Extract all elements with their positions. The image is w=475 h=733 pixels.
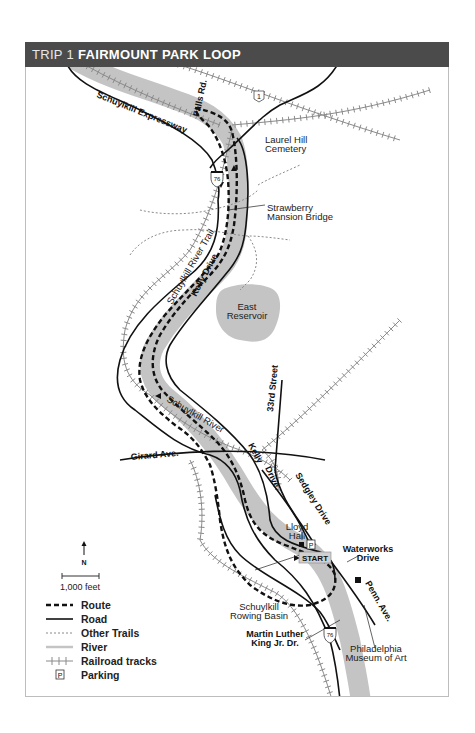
label-waterworks-2: Drive	[357, 553, 380, 563]
railroad-tie	[312, 114, 313, 120]
label-mlk-2: King Jr. Dr.	[251, 638, 299, 648]
svg-text:1: 1	[257, 93, 261, 100]
svg-text:76: 76	[214, 176, 221, 182]
railroad-tie	[223, 562, 226, 567]
railroad-tie	[172, 60, 174, 66]
railroad-tie	[282, 117, 283, 123]
label-sedgley-drive: Sedgley Drive	[293, 471, 333, 527]
railroad-tie	[275, 591, 278, 596]
railroad-tie	[198, 533, 204, 534]
lloyd-hall-marker	[299, 542, 304, 547]
railroad-tie	[196, 485, 202, 486]
railroad-tie	[235, 122, 236, 128]
label-laurel-hill-2: Cemetery	[265, 143, 306, 154]
legend-item-other-trails: Other Trails	[46, 627, 140, 639]
railroad-tie	[295, 614, 300, 617]
north-label: N	[81, 559, 86, 566]
railroad-tie	[377, 101, 378, 107]
railroad-tie	[270, 459, 275, 462]
railroad-tie	[288, 117, 289, 123]
railroad-tie	[198, 503, 204, 504]
legend: Route Road Other Trails River Railroad t…	[46, 599, 157, 681]
railroad-tie	[300, 115, 301, 121]
label-lloyd-hall-2: Hall	[289, 530, 305, 541]
svg-text:River: River	[81, 641, 107, 653]
label-east-reservoir-2: Reservoir	[227, 310, 268, 321]
railroad-tie	[183, 64, 185, 70]
railroad-tie	[329, 697, 335, 699]
railroad-tie	[291, 609, 296, 613]
railroad-tie	[136, 300, 141, 304]
railroad-tie	[178, 62, 180, 68]
railroad-tie	[228, 566, 231, 571]
railroad-tie	[353, 107, 354, 113]
railroad-tie	[371, 103, 372, 109]
railroad-tie	[332, 709, 338, 711]
label-strawberry-2: Mansion Bridge	[267, 211, 333, 222]
railroad-tie	[200, 543, 205, 546]
parking-marker-label: P	[309, 542, 314, 549]
railroad-tie	[218, 559, 222, 564]
railroad-tie	[342, 109, 343, 115]
us-1-shield: 1	[254, 91, 264, 102]
railroad-tie	[336, 110, 337, 116]
svg-text:Other Trails: Other Trails	[81, 627, 140, 639]
railroad-tie	[241, 121, 242, 127]
svg-text:Road: Road	[81, 613, 107, 625]
label-museum-2: Museum of Art	[345, 652, 407, 663]
north-arrow-icon	[82, 541, 87, 546]
railroad-tie	[265, 119, 266, 125]
roads	[66, 60, 375, 700]
i-76-shield-south: 76	[324, 627, 336, 643]
label-rowing-basin-2: Rowing Basin	[230, 610, 288, 621]
label-33rd-street: 33rd Street	[265, 364, 280, 412]
railroad-tie	[276, 118, 277, 124]
railroad-tie	[306, 114, 307, 120]
legend-item-river: River	[46, 641, 107, 653]
railroad-tie	[271, 118, 272, 124]
svg-text:Railroad tracks: Railroad tracks	[81, 655, 157, 667]
scale-label: 1,000 feet	[60, 582, 101, 592]
railroad-tie	[121, 340, 127, 341]
railroad-tie	[121, 334, 127, 335]
svg-text:P: P	[58, 672, 63, 679]
svg-text:76: 76	[327, 632, 334, 638]
leader-lines	[228, 205, 375, 648]
scale-bar: 1,000 feet	[60, 573, 101, 592]
label-drive-lower: Drive	[263, 465, 282, 490]
legend-item-route: Route	[46, 599, 111, 611]
railroad-tie	[121, 358, 127, 359]
railroad-tie	[324, 112, 325, 118]
railroad-tie	[197, 539, 203, 540]
railroad-tie	[298, 619, 303, 622]
railroad-tie	[197, 491, 203, 492]
railroad-tie	[347, 108, 348, 114]
railroad-tie	[330, 111, 331, 117]
railroad-tie	[294, 116, 295, 122]
legend-item-road: Road	[46, 613, 107, 625]
railroad-tie	[330, 703, 336, 705]
railroad-tie	[247, 121, 248, 127]
railroad-tie	[132, 305, 137, 308]
svg-text:Parking: Parking	[81, 669, 120, 681]
railroad-tie	[365, 104, 366, 110]
north-arrow: N	[81, 541, 86, 566]
label-penn-ave: Penn. Ave.	[363, 579, 394, 623]
label-girard-ave: Girard Ave.	[130, 448, 179, 462]
start-label: START	[302, 554, 328, 563]
railroad-tie	[198, 497, 204, 498]
railroad-tie	[383, 100, 384, 106]
i-76-shield-north: 76	[211, 171, 223, 187]
legend-item-parking: P Parking	[56, 669, 120, 681]
museum-marker	[355, 577, 361, 583]
legend-item-railroad: Railroad tracks	[46, 655, 157, 667]
railroad-tie	[388, 99, 389, 105]
svg-text:Route: Route	[81, 599, 111, 611]
railroad-tie	[359, 105, 360, 111]
trail-map[interactable]: P START 1 76 76 Falls Rd. Schuylkill Exp…	[0, 0, 475, 733]
